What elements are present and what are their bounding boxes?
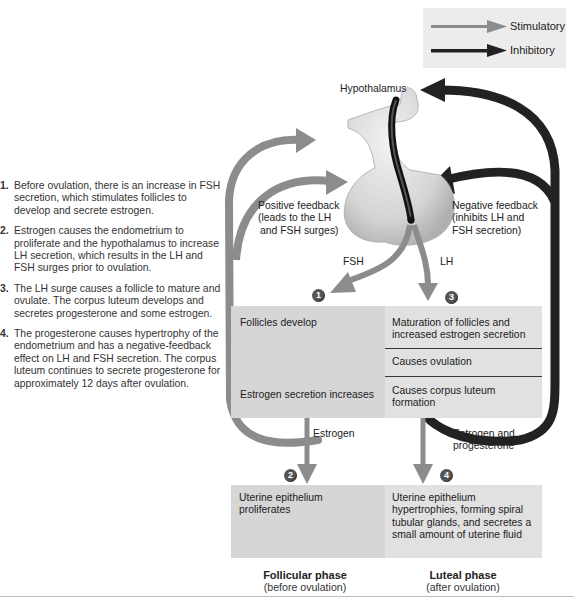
positive-feedback-label: Positive feedback (leads to the LH and F… bbox=[258, 200, 339, 237]
negative-feedback-line: (inhibits LH and bbox=[452, 212, 538, 224]
steps-list: 1. Before ovulation, there is an increas… bbox=[0, 180, 225, 398]
estrogen-progesterone-line: progesterone bbox=[453, 440, 515, 452]
fsh-arrowhead bbox=[330, 272, 356, 293]
inhibitory-arrow-icon bbox=[431, 44, 507, 58]
badge-4: 4 bbox=[440, 469, 453, 482]
bottom-rule bbox=[0, 596, 574, 597]
step-number: 2. bbox=[0, 225, 9, 237]
divider bbox=[385, 348, 542, 349]
positive-feedback-line: (leads to the LH bbox=[258, 212, 339, 224]
badge-1: 1 bbox=[312, 289, 325, 302]
legend-stimulatory-label: Stimulatory bbox=[510, 20, 565, 32]
step-number: 4. bbox=[0, 328, 9, 340]
badge-2: 2 bbox=[284, 469, 297, 482]
negative-feedback-line: FSH secretion) bbox=[452, 225, 538, 237]
maturation-text: Maturation of follicles and increased es… bbox=[392, 317, 542, 342]
estrogen-secretion-text: Estrogen secretion increases bbox=[240, 389, 380, 401]
positive-feedback-inner-arrowhead bbox=[326, 170, 348, 195]
hypothalamus-label: Hypothalamus bbox=[340, 83, 406, 95]
luteal-phase-label: Luteal phase (after ovulation) bbox=[408, 569, 518, 593]
step-text: The progesterone causes hypertrophy of t… bbox=[14, 328, 220, 389]
divider bbox=[385, 376, 542, 377]
ovary-box-follicular: Follicles develop Estrogen secretion inc… bbox=[231, 306, 385, 418]
step-2: 2. Estrogen causes the endometrium to pr… bbox=[0, 225, 225, 275]
negative-feedback-label: Negative feedback (inhibits LH and FSH s… bbox=[452, 200, 538, 237]
fsh-label: FSH bbox=[343, 256, 364, 268]
stimulatory-arrow-icon bbox=[431, 20, 507, 34]
follicles-develop-text: Follicles develop bbox=[240, 317, 317, 329]
step-number: 3. bbox=[0, 283, 9, 295]
positive-feedback-line: and FSH surges) bbox=[258, 225, 339, 237]
phase-title: Follicular phase bbox=[250, 569, 360, 581]
step-text: The LH surge causes a follicle to mature… bbox=[14, 283, 220, 319]
step-4: 4. The progesterone causes hypertrophy o… bbox=[0, 328, 225, 390]
estrogen-arrowhead bbox=[297, 464, 317, 484]
lh-label: LH bbox=[440, 256, 453, 268]
ovary-box-luteal: Maturation of follicles and increased es… bbox=[385, 306, 542, 418]
uterine-proliferates-text: Uterine epithelium proliferates bbox=[239, 492, 359, 517]
phase-subtitle: (before ovulation) bbox=[250, 581, 360, 593]
step-number: 1. bbox=[0, 180, 9, 192]
step-text: Before ovulation, there is an increase i… bbox=[14, 180, 220, 216]
uterine-hypertrophies-text: Uterine epithelium hypertrophies, formin… bbox=[392, 492, 540, 542]
positive-feedback-outer-arrowhead bbox=[296, 128, 316, 153]
lh-arrowhead bbox=[418, 283, 438, 301]
step-1: 1. Before ovulation, there is an increas… bbox=[0, 180, 225, 217]
negative-feedback-hypothalamus-arrowhead bbox=[420, 78, 445, 102]
badge-3: 3 bbox=[445, 291, 458, 304]
phase-subtitle: (after ovulation) bbox=[408, 581, 518, 593]
positive-feedback-line: Positive feedback bbox=[258, 200, 339, 212]
uterus-box-follicular: Uterine epithelium proliferates bbox=[231, 485, 385, 558]
legend-inhibitory-label: Inhibitory bbox=[510, 44, 555, 56]
step-text: Estrogen causes the endometrium to proli… bbox=[14, 225, 219, 273]
estrogen-progesterone-label: Estrogen and progesterone bbox=[453, 428, 515, 453]
uterus-box-luteal: Uterine epithelium hypertrophies, formin… bbox=[385, 485, 542, 558]
follicular-phase-label: Follicular phase (before ovulation) bbox=[250, 569, 360, 593]
pituitary-gland bbox=[344, 88, 454, 246]
estrogen-progesterone-arrowhead bbox=[413, 464, 433, 484]
negative-feedback-line: Negative feedback bbox=[452, 200, 538, 212]
phase-title: Luteal phase bbox=[408, 569, 518, 581]
causes-ovulation-text: Causes ovulation bbox=[392, 356, 472, 368]
legend: Stimulatory Inhibitory bbox=[423, 8, 566, 68]
estrogen-progesterone-line: Estrogen and bbox=[453, 428, 515, 440]
estrogen-label: Estrogen bbox=[313, 428, 355, 440]
corpus-luteum-text: Causes corpus luteum formation bbox=[392, 385, 532, 410]
step-3: 3. The LH surge causes a follicle to mat… bbox=[0, 283, 225, 320]
